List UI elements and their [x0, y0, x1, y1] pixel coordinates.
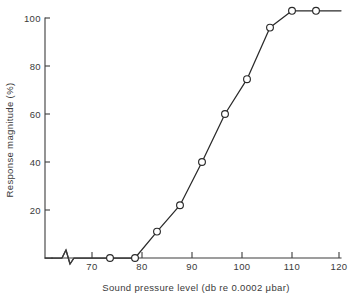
y-axis: 100 80 60 40 20 Response magnitude (%) [4, 13, 52, 259]
x-axis-ticks [92, 252, 339, 258]
series-markers [107, 7, 320, 261]
response-magnitude-line-chart: 100 80 60 40 20 Response magnitude (%) 7… [0, 0, 350, 300]
data-point [289, 7, 296, 14]
data-point [154, 228, 161, 235]
y-axis-line [45, 18, 52, 258]
y-tick-label-80: 80 [30, 61, 41, 72]
y-tick-label-40: 40 [30, 157, 41, 168]
y-tick-label-20: 20 [30, 205, 41, 216]
x-axis-title: Sound pressure level (db re 0.0002 μbar) [102, 282, 289, 293]
y-axis-ticks [45, 18, 50, 210]
data-point [132, 255, 139, 262]
x-axis-break-zigzag [62, 250, 74, 264]
data-point [222, 111, 229, 118]
data-point [267, 24, 274, 31]
y-axis-tick-labels: 100 80 60 40 20 [24, 13, 41, 216]
y-tick-label-100: 100 [24, 13, 41, 24]
data-point [107, 255, 114, 262]
x-tick-label-70: 70 [86, 261, 97, 272]
data-point [244, 76, 251, 83]
x-tick-label-120: 120 [330, 261, 347, 272]
data-point [177, 202, 184, 209]
x-axis-tick-labels: 70 80 90 100 110 120 [86, 261, 347, 272]
chart-figure: 100 80 60 40 20 Response magnitude (%) 7… [0, 0, 350, 300]
y-tick-label-60: 60 [30, 109, 41, 120]
data-point [313, 7, 320, 14]
series-line [45, 11, 341, 264]
data-series-response-magnitude [45, 7, 341, 264]
x-tick-label-80: 80 [136, 261, 147, 272]
x-tick-label-100: 100 [233, 261, 250, 272]
data-point [199, 159, 206, 166]
y-axis-title: Response magnitude (%) [4, 83, 15, 198]
x-tick-label-110: 110 [284, 261, 300, 272]
x-tick-label-90: 90 [186, 261, 197, 272]
